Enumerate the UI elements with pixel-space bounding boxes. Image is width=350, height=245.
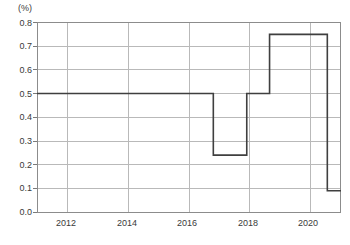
chart-container: (%) 0.8 0.7 0.6 0.5 0.4 0.3 0.2 0.1 0.0 … <box>0 0 350 245</box>
chart-plot-area <box>0 0 350 245</box>
y-tick-marks <box>33 23 37 213</box>
